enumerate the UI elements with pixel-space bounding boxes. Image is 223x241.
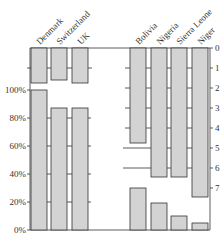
chart: 0% 20% 40% 60% 80% 100% 0 1 2 3 4 5 6 7 — [0, 0, 223, 241]
bar-bolivia-lower — [130, 188, 146, 230]
left-lower-bars — [31, 90, 88, 230]
left-tick-100: 100% — [5, 85, 27, 95]
bar-switzerland-lower — [51, 108, 67, 230]
bar-niger-lower — [192, 223, 208, 230]
bar-sierra-leone-upper — [171, 48, 187, 177]
bar-switzerland-upper — [51, 48, 67, 80]
bar-uk-lower — [72, 108, 88, 230]
bar-bolivia-upper — [130, 48, 146, 143]
category-labels: Denmark Switzerland UK Bolivia Nigeria S… — [34, 7, 217, 47]
left-tick-40: 40% — [10, 169, 27, 179]
left-tick-60: 60% — [10, 141, 27, 151]
right-tick-0: 0 — [215, 43, 220, 53]
left-tick-20: 20% — [10, 197, 27, 207]
right-tick-4: 4 — [215, 123, 220, 133]
right-axis-ticks: 0 1 2 3 4 5 6 7 — [210, 43, 220, 193]
bar-niger-upper — [192, 48, 208, 197]
right-tick-5: 5 — [215, 143, 220, 153]
right-tick-1: 1 — [215, 63, 220, 73]
label-bolivia: Bolivia — [133, 21, 159, 47]
right-tick-6: 6 — [215, 163, 220, 173]
left-tick-0: 0% — [14, 225, 27, 235]
bar-uk-upper — [72, 48, 88, 83]
right-tick-3: 3 — [215, 103, 220, 113]
left-tick-80: 80% — [10, 113, 27, 123]
right-tick-2: 2 — [215, 83, 220, 93]
bar-sierra-leone-lower — [171, 216, 187, 230]
label-uk: UK — [75, 30, 92, 47]
right-tick-7: 7 — [215, 183, 220, 193]
left-upper-bars — [31, 48, 88, 83]
bar-nigeria-lower — [151, 203, 167, 230]
left-axis-ticks: 0% 20% 40% 60% 80% 100% — [5, 85, 30, 235]
bar-denmark-lower — [31, 90, 47, 230]
right-upper-bars — [130, 48, 208, 197]
bar-nigeria-upper — [151, 48, 167, 177]
bar-denmark-upper — [31, 48, 47, 83]
